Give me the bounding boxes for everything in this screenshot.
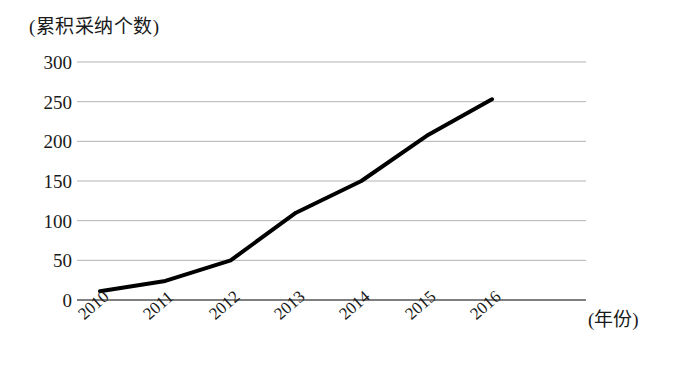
series-line xyxy=(100,99,492,291)
y-tick-label: 200 xyxy=(18,132,72,151)
y-tick-label: 300 xyxy=(18,53,72,72)
line-chart: (累积采纳个数) (年份) 050100150200250300 2010201… xyxy=(0,0,682,369)
y-tick-label: 50 xyxy=(18,251,72,270)
y-tick-label: 250 xyxy=(18,93,72,112)
y-tick-label: 100 xyxy=(18,212,72,231)
gridlines xyxy=(77,62,586,260)
y-tick-label: 0 xyxy=(18,291,72,310)
y-tick-label: 150 xyxy=(18,172,72,191)
data-series xyxy=(100,99,492,291)
